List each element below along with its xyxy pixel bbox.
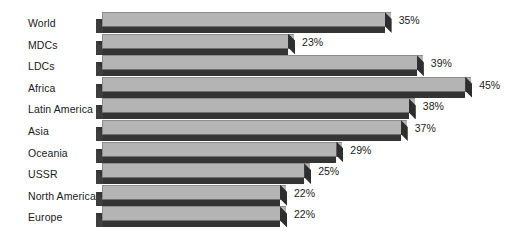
bar-top-face <box>102 120 407 134</box>
category-label: World <box>28 16 56 30</box>
bar <box>96 12 392 34</box>
bar-highlight-edge <box>102 220 286 221</box>
bar-value-label: 37% <box>415 122 436 135</box>
bar-value-label: 23% <box>302 36 323 49</box>
bar-row: LDCs39% <box>0 55 514 77</box>
bar <box>96 142 343 164</box>
bar-value-label: 45% <box>479 79 500 92</box>
category-label: Oceania <box>28 146 68 160</box>
category-label: Africa <box>28 81 55 95</box>
bar-value-label: 22% <box>294 187 315 200</box>
category-label: LDCs <box>28 59 55 73</box>
category-label: North America <box>28 189 96 203</box>
bar-highlight-edge <box>102 156 342 157</box>
bar-highlight-edge <box>102 199 286 200</box>
bar-row: USSR25% <box>0 163 514 185</box>
bar-highlight-edge <box>102 48 294 49</box>
bar-top-face <box>102 163 310 177</box>
category-label: MDCs <box>28 38 58 52</box>
bar <box>96 163 311 185</box>
bar <box>96 77 472 99</box>
bar-highlight-edge <box>102 69 423 70</box>
bar <box>96 120 408 142</box>
bar-top-face <box>102 206 286 220</box>
bar-highlight-edge <box>102 26 391 27</box>
bar-row: MDCs23% <box>0 34 514 56</box>
bar <box>96 34 295 56</box>
category-label: USSR <box>28 167 58 181</box>
bar <box>96 55 424 77</box>
bar-highlight-edge <box>102 112 415 113</box>
bar-value-label: 38% <box>423 100 444 113</box>
bar <box>96 98 416 120</box>
bar-highlight-edge <box>102 177 310 178</box>
bar-row: World35% <box>0 12 514 34</box>
bar-top-face <box>102 77 471 91</box>
bar-value-label: 35% <box>399 14 420 27</box>
bar-value-label: 22% <box>294 208 315 221</box>
bar-value-label: 25% <box>318 165 339 178</box>
bar-row: Europe22% <box>0 206 514 228</box>
bar <box>96 206 287 228</box>
bar <box>96 185 287 207</box>
bar-highlight-edge <box>102 91 471 92</box>
category-label: Europe <box>28 210 62 224</box>
category-label: Asia <box>28 124 49 138</box>
bar-highlight-edge <box>102 134 407 135</box>
bar-row: North America22% <box>0 185 514 207</box>
bar-row: Oceania29% <box>0 142 514 164</box>
bar-row: Asia37% <box>0 120 514 142</box>
bar-value-label: 29% <box>350 144 371 157</box>
bar-top-face <box>102 34 294 48</box>
bar-top-face <box>102 55 423 69</box>
bar-top-face <box>102 142 342 156</box>
bar-row: Africa45% <box>0 77 514 99</box>
bar-top-face <box>102 12 391 26</box>
category-label: Latin America <box>28 102 93 116</box>
bar-top-face <box>102 185 286 199</box>
bar-row: Latin America38% <box>0 98 514 120</box>
bar-value-label: 39% <box>431 57 452 70</box>
bar-top-face <box>102 98 415 112</box>
bar-chart: World35%MDCs23%LDCs39%Africa45%Latin Ame… <box>0 0 514 237</box>
